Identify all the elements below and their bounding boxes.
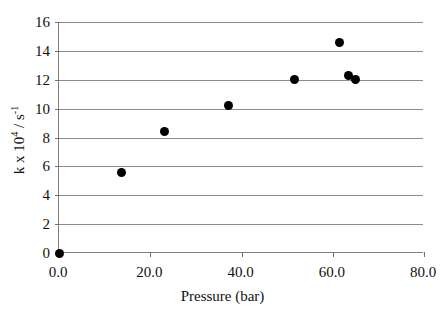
x-tick-label-20.0: 20.0: [136, 265, 162, 280]
x-axis-title: Pressure (bar): [0, 289, 445, 304]
y-tick-4: [55, 195, 59, 196]
y-tick-6: [55, 166, 59, 167]
x-tick-60.0: [333, 252, 334, 257]
data-point: [160, 127, 169, 136]
x-tick-20.0: [150, 252, 151, 257]
data-point: [290, 75, 299, 84]
gridline-y-6: [59, 166, 423, 167]
y-tick-label-0: 0: [4, 246, 50, 261]
y-axis-title: k x 104 / s-1: [6, 70, 32, 210]
y-tick-12: [55, 80, 59, 81]
y-tick-14: [55, 51, 59, 52]
y-tick-2: [55, 224, 59, 225]
y-tick-8: [55, 138, 59, 139]
y-tick-10: [55, 109, 59, 110]
gridline-y-14: [59, 51, 423, 52]
x-tick-label-0.0: 0.0: [49, 265, 68, 280]
plot-area: [58, 22, 423, 253]
data-point: [224, 101, 233, 110]
y-tick-label-2: 2: [4, 217, 50, 232]
gridline-y-4: [59, 195, 423, 196]
data-point: [351, 75, 360, 84]
y-axis-title-text: k x 104 / s-1: [12, 106, 27, 175]
x-tick-40.0: [242, 252, 243, 257]
gridline-y-8: [59, 138, 423, 139]
gridline-y-16: [59, 22, 423, 23]
scatter-chart-figure: 0246810121416 0.020.040.060.080.0 k x 10…: [0, 0, 445, 319]
x-tick-label-60.0: 60.0: [319, 265, 345, 280]
y-tick-label-16: 16: [4, 15, 50, 30]
x-tick-80.0: [424, 252, 425, 257]
x-tick-label-80.0: 80.0: [410, 265, 436, 280]
gridline-y-2: [59, 224, 423, 225]
data-point: [55, 249, 64, 258]
data-point: [117, 168, 126, 177]
data-point: [335, 38, 344, 47]
y-tick-label-14: 14: [4, 43, 50, 58]
x-tick-label-40.0: 40.0: [227, 265, 253, 280]
y-tick-16: [55, 22, 59, 23]
gridline-y-12: [59, 80, 423, 81]
gridline-y-10: [59, 109, 423, 110]
